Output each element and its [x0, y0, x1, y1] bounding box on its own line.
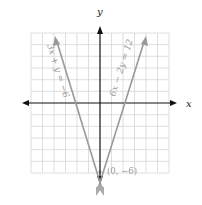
point-label: (0, −6) — [107, 166, 137, 176]
y-axis — [97, 26, 103, 184]
y-axis-label: y — [96, 6, 103, 17]
x-axis-left-arrow-icon — [22, 100, 29, 106]
line1-label: 3x + y = −6 — [45, 43, 71, 99]
x-axis-label: x — [186, 98, 192, 109]
y-axis-up-arrow-icon — [97, 26, 103, 34]
x-axis-right-arrow-icon — [170, 100, 177, 106]
intersection-point — [99, 171, 102, 174]
graph-canvas: 3x + y = −6 6x − 2y = 12 y x (0, −6) — [0, 0, 202, 205]
